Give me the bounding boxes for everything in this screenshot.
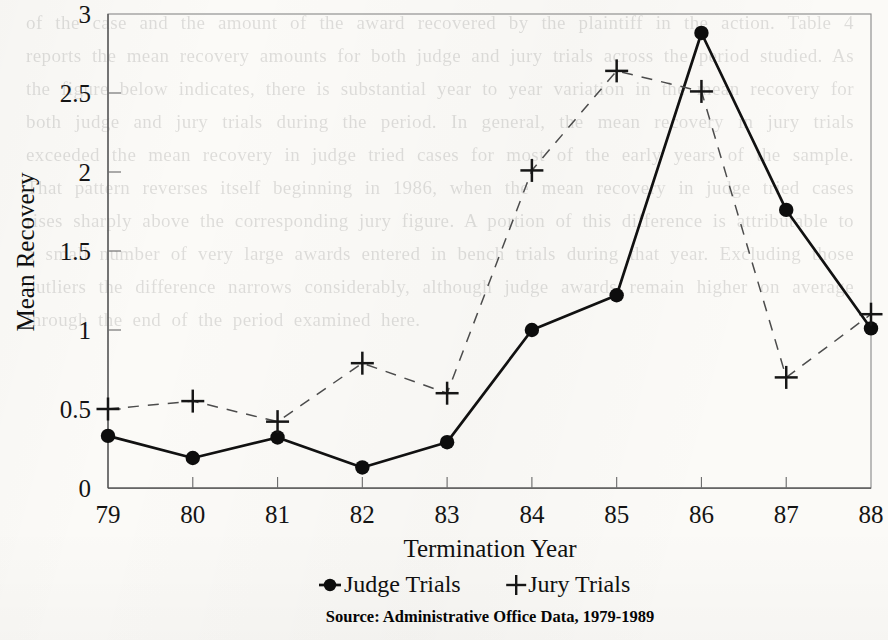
series-lines bbox=[108, 33, 871, 468]
plot-frame bbox=[108, 14, 871, 488]
data-point-jury-trials-82 bbox=[351, 352, 374, 375]
x-tick-label: 83 bbox=[435, 501, 460, 528]
y-axis-ticks bbox=[108, 93, 121, 409]
legend-label: Jury Trials bbox=[528, 571, 630, 597]
x-tick-label: 87 bbox=[774, 501, 799, 528]
x-tick-label: 84 bbox=[519, 501, 545, 528]
y-tick-label: 0.5 bbox=[60, 396, 91, 423]
data-point-jury-trials-84 bbox=[520, 159, 543, 182]
data-point-jury-trials-79 bbox=[97, 398, 120, 421]
x-tick-label: 85 bbox=[604, 501, 629, 528]
x-tick-label: 79 bbox=[96, 501, 121, 528]
figure-chart: 00.511.522.53 79808182838485868788 Mean … bbox=[0, 0, 888, 640]
x-axis-tick-labels: 79808182838485868788 bbox=[96, 501, 884, 528]
series-line-judge-trials bbox=[108, 33, 871, 468]
x-tick-label: 81 bbox=[265, 501, 290, 528]
data-point-jury-trials-80 bbox=[181, 390, 204, 413]
x-tick-label: 80 bbox=[180, 501, 205, 528]
data-point-jury-trials-88 bbox=[860, 303, 883, 326]
y-tick-label: 1.5 bbox=[60, 238, 91, 265]
data-point-jury-trials-85 bbox=[605, 59, 628, 82]
chart-legend: Judge TrialsJury Trials bbox=[319, 571, 630, 597]
legend-marker-circle-icon bbox=[324, 579, 336, 591]
legend-item-jury-trials: Jury Trials bbox=[506, 571, 630, 597]
y-tick-label: 2.5 bbox=[60, 80, 91, 107]
y-axis-tick-labels: 00.511.522.53 bbox=[60, 1, 91, 502]
data-point-jury-trials-81 bbox=[266, 410, 289, 433]
data-point-judge-trials-87 bbox=[779, 203, 793, 217]
y-axis-title: Mean Recovery bbox=[12, 172, 39, 331]
legend-item-judge-trials: Judge Trials bbox=[319, 571, 461, 597]
series-markers bbox=[97, 26, 883, 475]
y-tick-label: 1 bbox=[79, 317, 92, 344]
x-axis-ticks bbox=[193, 477, 786, 488]
legend-label: Judge Trials bbox=[344, 571, 461, 597]
series-line-jury-trials bbox=[108, 71, 871, 422]
data-point-judge-trials-79 bbox=[101, 429, 115, 443]
x-axis-title: Termination Year bbox=[403, 535, 577, 562]
y-tick-label: 3 bbox=[79, 1, 92, 28]
x-tick-label: 88 bbox=[859, 501, 884, 528]
data-point-judge-trials-82 bbox=[355, 460, 369, 474]
data-point-jury-trials-86 bbox=[690, 80, 713, 103]
x-tick-label: 82 bbox=[350, 501, 375, 528]
chart-svg: 00.511.522.53 79808182838485868788 Mean … bbox=[0, 0, 888, 640]
source-caption: Source: Administrative Office Data, 1979… bbox=[326, 607, 654, 626]
y-tick-label: 0 bbox=[79, 475, 92, 502]
data-point-judge-trials-83 bbox=[440, 435, 454, 449]
data-point-jury-trials-83 bbox=[436, 382, 459, 405]
y-tick-label: 2 bbox=[79, 159, 92, 186]
data-point-judge-trials-85 bbox=[609, 288, 623, 302]
data-point-jury-trials-87 bbox=[775, 366, 798, 389]
data-point-judge-trials-80 bbox=[186, 451, 200, 465]
data-point-judge-trials-84 bbox=[525, 323, 539, 337]
plot-box bbox=[108, 14, 871, 488]
x-tick-label: 86 bbox=[689, 501, 714, 528]
data-point-judge-trials-86 bbox=[694, 26, 708, 40]
